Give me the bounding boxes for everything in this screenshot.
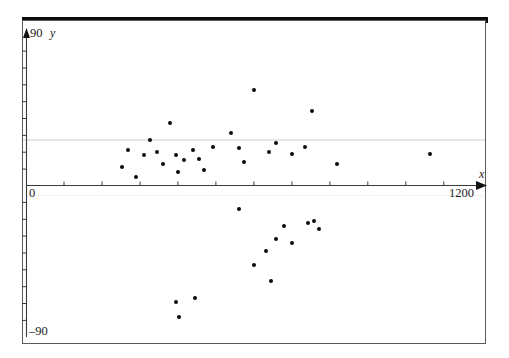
- scatter-point: [161, 162, 165, 166]
- scatter-point: [290, 152, 294, 156]
- y-axis-max-label: 90: [30, 26, 43, 41]
- scatter-point: [237, 207, 241, 211]
- scatter-point: [335, 162, 339, 166]
- y-axis-min-label: –90: [29, 324, 48, 339]
- x-axis-origin-label: 0: [29, 186, 35, 201]
- scatter-point: [148, 138, 152, 142]
- scatter-point: [182, 158, 186, 162]
- scatter-point: [290, 241, 294, 245]
- plot-axes: [0, 0, 509, 358]
- x-axis-name-label: x: [479, 167, 484, 182]
- scatter-point: [155, 150, 159, 154]
- scatter-point: [197, 157, 201, 161]
- scatter-point: [428, 152, 432, 156]
- scatter-point: [252, 88, 256, 92]
- scatter-point: [168, 121, 172, 125]
- scatter-point: [267, 150, 271, 154]
- scatter-point: [303, 145, 307, 149]
- scatter-point: [176, 170, 180, 174]
- scatter-point: [252, 263, 256, 267]
- y-axis-name-label: y: [50, 26, 55, 41]
- scatter-point: [174, 300, 178, 304]
- scatter-point: [177, 315, 181, 319]
- scatter-plot-figure: 90 y 0 1200 x –90: [0, 0, 509, 358]
- scatter-point: [282, 224, 286, 228]
- scatter-point: [306, 221, 310, 225]
- scatter-point: [264, 249, 268, 253]
- scatter-point: [211, 145, 215, 149]
- x-axis-max-label: 1200: [449, 186, 474, 201]
- scatter-point: [120, 165, 124, 169]
